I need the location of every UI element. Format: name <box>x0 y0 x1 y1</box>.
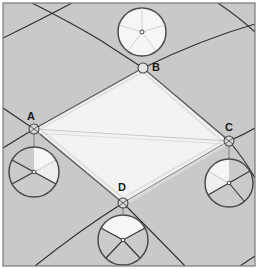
label-c: C <box>225 121 233 133</box>
label-a: A <box>27 110 35 122</box>
marker-ring <box>138 63 148 73</box>
diagram-canvas: A B C D <box>0 0 258 269</box>
label-d: D <box>118 181 126 193</box>
vertex-a-marker <box>29 124 39 134</box>
center-dot <box>227 181 231 185</box>
pie-circle-d <box>98 215 148 265</box>
vertex-b-marker <box>138 63 148 73</box>
vertex-c-marker <box>224 136 234 146</box>
center-dot <box>140 30 144 34</box>
vertex-d-marker <box>118 198 128 208</box>
geometry-diagram: A B C D <box>0 0 258 269</box>
pie-circle-a <box>9 147 59 197</box>
center-dot <box>32 170 36 174</box>
label-b: B <box>152 61 160 73</box>
pie-circle-c <box>205 159 253 207</box>
pie-circle-b <box>118 8 166 56</box>
center-dot <box>121 238 125 242</box>
